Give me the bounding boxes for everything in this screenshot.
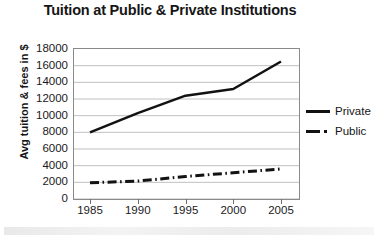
legend-swatch-dashdot-icon	[306, 126, 330, 136]
legend-label-public: Public	[335, 125, 366, 137]
y-tick-label: 16000	[22, 60, 68, 71]
chart-legend: Private Public	[306, 101, 378, 141]
y-tick-label: 8000	[22, 126, 68, 137]
x-tick-label: 1985	[67, 204, 113, 216]
chart-title: Tuition at Public & Private Institutions	[0, 2, 340, 19]
x-tick-label: 1995	[163, 204, 209, 216]
y-tick-label: 0	[22, 193, 68, 204]
series-line-private	[90, 62, 281, 133]
x-tick-label: 1990	[115, 204, 161, 216]
legend-swatch-solid-icon	[306, 106, 330, 116]
page-text-artifact	[4, 227, 374, 235]
legend-item-public: Public	[306, 121, 378, 141]
y-tick-label: 12000	[22, 93, 68, 104]
plot-area	[73, 48, 300, 200]
y-tick-label: 2000	[22, 176, 68, 187]
y-axis-tick-labels: 1800016000140001200010000800060004000200…	[22, 44, 68, 201]
tuition-line-chart: Tuition at Public & Private Institutions…	[0, 0, 378, 236]
y-tick-label: 6000	[22, 143, 68, 154]
legend-item-private: Private	[306, 101, 378, 121]
series-line-public	[90, 169, 281, 183]
x-tick-label: 2000	[210, 204, 256, 216]
y-tick-label: 4000	[22, 160, 68, 171]
legend-label-private: Private	[335, 105, 371, 117]
x-tick-label: 2005	[258, 204, 304, 216]
y-tick-label: 14000	[22, 76, 68, 87]
y-tick-label: 18000	[22, 43, 68, 54]
y-tick-label: 10000	[22, 110, 68, 121]
plot-svg	[74, 49, 299, 199]
